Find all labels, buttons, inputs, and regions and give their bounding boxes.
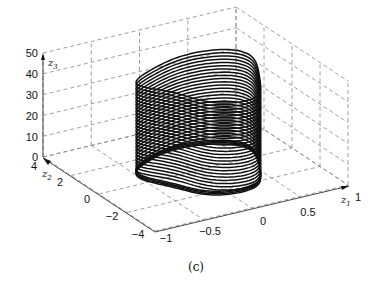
z1-arrow-icon — [341, 186, 349, 190]
z1-tick: −1 — [160, 232, 173, 244]
z2-label: z2 — [41, 168, 52, 182]
3d-plot: 50 40 30 20 10 0 z3 4 2 0 −2 −4 z2 −1 −0… — [0, 0, 382, 283]
z1-tick: 0 — [260, 215, 266, 227]
z2-tick: 2 — [57, 176, 63, 188]
z2-arrow-icon — [43, 158, 51, 165]
z2-tick: −2 — [106, 210, 119, 222]
figure-caption: (c) — [188, 260, 204, 274]
z3-arrow-icon — [41, 53, 45, 60]
z1-tick: −0.5 — [199, 225, 221, 237]
z3-tick: 50 — [26, 47, 38, 59]
z3-label: z3 — [47, 57, 58, 71]
z1-tick: 0.5 — [300, 206, 315, 218]
z3-tick: 30 — [26, 89, 38, 101]
z3-tick: 40 — [26, 68, 38, 80]
z1-label: z1 — [340, 194, 351, 208]
z2-tick: 0 — [84, 193, 90, 205]
z3-tick: 10 — [26, 131, 38, 143]
z1-axis — [155, 186, 349, 232]
z2-tick: 4 — [31, 160, 37, 172]
trajectory-stack — [136, 50, 261, 195]
z3-tick: 20 — [26, 110, 38, 122]
z1-tick: 1 — [355, 191, 361, 203]
z2-tick: −4 — [132, 228, 145, 240]
